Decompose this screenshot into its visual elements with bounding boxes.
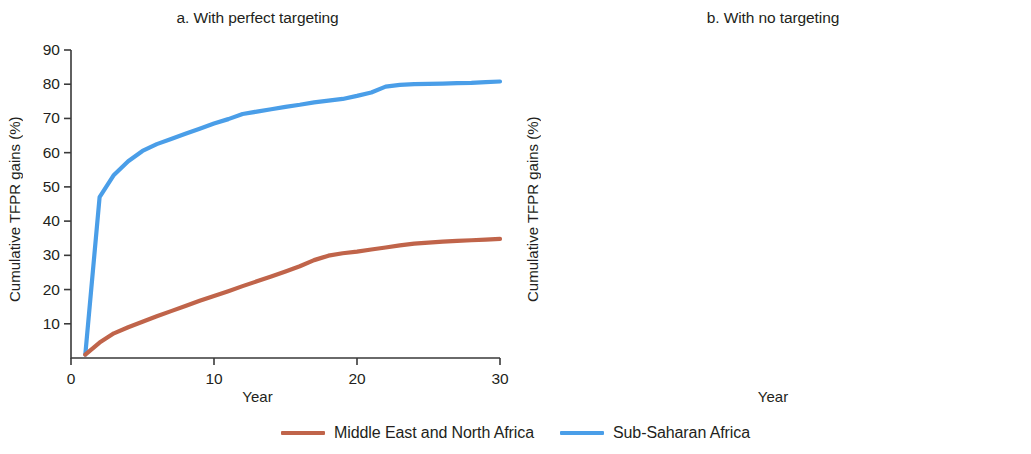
y-tick-label: 80: [43, 75, 60, 93]
chart-panel-a: a. With perfect targeting Cumulative TFP…: [0, 0, 515, 420]
y-tick-label: 50: [43, 178, 60, 196]
panel-a-plot-area: 1020304050607080900102030: [71, 50, 500, 358]
y-tick-label: 90: [43, 41, 60, 59]
x-tick-label: 20: [348, 370, 365, 388]
legend-line-swatch-icon: [560, 431, 604, 436]
y-tick-label: 70: [43, 109, 60, 127]
panel-a-svg: [71, 50, 500, 358]
y-tick-label: 40: [43, 212, 60, 230]
panel-b-title: b. With no targeting: [515, 9, 1031, 27]
chart-panel-b: b. With no targeting Cumulative TFPR gai…: [515, 0, 1031, 420]
panel-a-y-axis-label: Cumulative TFPR gains (%): [6, 78, 23, 340]
panel-b-y-axis-label: Cumulative TFPR gains (%): [524, 68, 541, 350]
y-tick-label: 20: [43, 281, 60, 299]
panel-a-x-axis-label: Year: [0, 388, 515, 405]
y-tick-label: 60: [43, 144, 60, 162]
legend-item-ssa[interactable]: Sub-Saharan Africa: [560, 424, 750, 442]
x-tick-label: 10: [205, 370, 222, 388]
figure-container: a. With perfect targeting Cumulative TFP…: [0, 0, 1031, 454]
y-tick-label: 10: [43, 315, 60, 333]
legend-line-swatch-icon: [281, 431, 325, 436]
x-tick-label: 30: [491, 370, 508, 388]
legend-label: Middle East and North Africa: [334, 424, 534, 442]
y-tick-label: 30: [43, 246, 60, 264]
x-tick-label: 0: [67, 370, 76, 388]
legend-label: Sub-Saharan Africa: [613, 424, 750, 442]
legend-item-mena[interactable]: Middle East and North Africa: [281, 424, 534, 442]
panel-b-x-axis-label: Year: [515, 388, 1031, 405]
panel-a-title: a. With perfect targeting: [0, 9, 515, 27]
chart-legend: Middle East and North AfricaSub-Saharan …: [0, 424, 1031, 442]
